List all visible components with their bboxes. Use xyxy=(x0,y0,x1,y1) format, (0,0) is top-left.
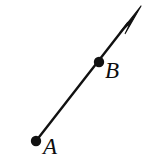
point-b-label: B xyxy=(105,59,119,82)
point-b-dot xyxy=(94,57,104,67)
arrowhead-icon xyxy=(120,6,141,34)
point-a-label: A xyxy=(43,135,57,156)
ray-diagram-canvas xyxy=(0,0,149,156)
point-a-dot xyxy=(31,136,41,146)
geometry-figure: A B xyxy=(0,0,149,156)
